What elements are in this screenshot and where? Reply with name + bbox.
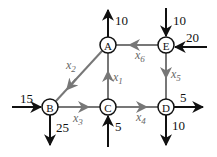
internal-edges bbox=[56, 45, 166, 107]
label-x4: x4 bbox=[135, 110, 146, 126]
label-x1: x1 bbox=[112, 70, 123, 86]
node-c: C bbox=[100, 99, 116, 115]
label-x3: x3 bbox=[72, 111, 83, 127]
value-e-in-top: 10 bbox=[173, 13, 186, 28]
node-a: A bbox=[100, 37, 116, 53]
value-b-in: 15 bbox=[20, 91, 33, 106]
svg-text:B: B bbox=[46, 102, 53, 114]
label-x2: x2 bbox=[65, 58, 76, 74]
svg-text:E: E bbox=[163, 40, 170, 52]
svg-text:C: C bbox=[104, 102, 111, 114]
node-e: E bbox=[158, 37, 174, 53]
value-d-out-down: 10 bbox=[172, 118, 185, 133]
value-b-out: 25 bbox=[56, 120, 69, 135]
svg-text:A: A bbox=[104, 40, 112, 52]
label-x5: x5 bbox=[170, 67, 181, 83]
value-c-in: 5 bbox=[115, 119, 122, 134]
node-b: B bbox=[42, 99, 58, 115]
edge-x2 bbox=[56, 51, 102, 101]
label-x6: x6 bbox=[134, 48, 145, 64]
value-e-in-right: 20 bbox=[186, 30, 199, 45]
value-d-out-right: 5 bbox=[180, 90, 187, 105]
value-a-out: 10 bbox=[115, 13, 128, 28]
svg-text:D: D bbox=[162, 102, 170, 114]
node-d: D bbox=[158, 99, 174, 115]
network-diagram: A E B C D x1 x2 x3 x4 x5 x6 10 10 20 15 bbox=[0, 0, 217, 157]
